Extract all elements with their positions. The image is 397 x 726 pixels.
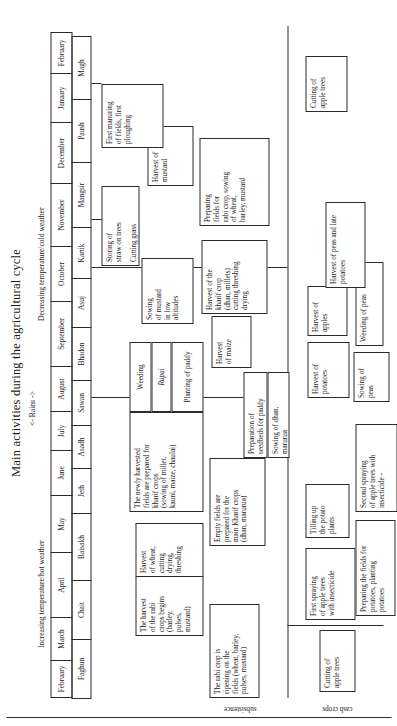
- activity-harvest-potatoes: Harvest of potatoes: [307, 342, 349, 398]
- activity-mustard-sowing-low-altitude: Sowing of mustard in low altitudes: [141, 258, 193, 324]
- activity-planting-paddy: Planting of paddy: [171, 342, 203, 412]
- nepali-month-chait: Chait: [71, 580, 91, 640]
- nepali-month-bhadon: Bhadon: [71, 327, 91, 381]
- activity-rabi-ripening: The rabi crop is ripening on the fields …: [209, 604, 259, 698]
- activity-second-spraying-apple-trees: Second spraying of apple trees with inse…: [355, 424, 397, 512]
- nepali-month-jeth: Jeth: [71, 468, 91, 514]
- calendar-header: February March April May June July Augus…: [50, 26, 91, 698]
- english-months-row: February March April May June July Augus…: [50, 26, 72, 698]
- nepali-months-row: Faghun Chait Baisakh Jeth Asadh Sawan Bh…: [72, 26, 91, 698]
- month-cell-march: March: [50, 617, 72, 661]
- activity-wheat-harvest: Harvest of wheat, cutting drying, thresh…: [135, 523, 203, 577]
- row-label-cash-crops: cash crops: [300, 703, 374, 712]
- activity-cutting-apple-trees-early: Cutting of apple trees: [319, 630, 355, 692]
- nepali-month-sawan: Sawan: [71, 380, 91, 426]
- activity-kharif-harvest: Harvest of the kharif crop (dhan, millet…: [201, 240, 267, 314]
- nepali-month-faghun: Faghun: [71, 639, 91, 699]
- activity-cutting-apple-trees-late: Cutting of apple trees: [305, 56, 347, 112]
- activity-straw-storing-cutting-grass: Storing of straw on trees Cutting grass: [101, 186, 139, 266]
- nepali-month-asuj: Asuj: [71, 278, 91, 328]
- connector-manuring-vertical: [91, 219, 101, 220]
- nepali-month-kartik: Kartik: [71, 227, 91, 279]
- month-cell-january: January: [50, 73, 72, 123]
- activity-first-manuring-ploughing: First manuring of fields, first ploughin…: [101, 84, 163, 148]
- activity-newly-harvested-kharif: The newly harvested fields are prepared …: [129, 412, 203, 512]
- month-cell-december: December: [50, 122, 72, 184]
- activity-harvest-apples: Harvest of apples: [307, 286, 347, 336]
- row-label-subsistence: subsistence: [198, 703, 282, 712]
- activity-rupai: Rupai: [151, 342, 171, 412]
- activity-tilling-potato-plants: Tilling up the potato plants: [305, 484, 349, 538]
- chart-title: Main activities during the agricultural …: [8, 0, 23, 726]
- activity-sowing-peas: Sowing of peas: [353, 352, 389, 402]
- header-rains: <- Rains ->: [27, 391, 36, 426]
- month-cell-september: September: [50, 301, 72, 367]
- agricultural-cycle-chart: Main activities during the agricultural …: [0, 0, 397, 726]
- month-cell-august: August: [50, 366, 72, 412]
- activities-plot: The rabi crop is ripening on the fields …: [91, 26, 383, 698]
- screenshot-root: Main activities during the agricultural …: [0, 0, 397, 726]
- connector-apple-vertical: [91, 83, 101, 84]
- nepali-month-paush: Paush: [71, 99, 91, 163]
- month-cell-june: June: [50, 450, 72, 496]
- month-cell-february-start: February: [50, 660, 72, 698]
- activity-harvest-peas-late-potatoes: Harvest of peas and late potatoes: [325, 202, 365, 288]
- nepali-month-magh: Magh: [71, 36, 91, 100]
- activity-empty-fields-kharif: Empty fields are prepared for the main K…: [209, 458, 265, 546]
- activity-preparing-rabi-fields: Preparing fields for rabi crop, sowing o…: [199, 138, 269, 226]
- vertical-rule-cash-start: [287, 625, 383, 626]
- month-cell-november: November: [50, 183, 72, 247]
- month-cell-may: May: [50, 495, 72, 553]
- nepali-month-mangsir: Mangsir: [71, 162, 91, 228]
- month-cell-february-end: February: [50, 32, 72, 74]
- activity-first-spraying-apple-trees: First spraying of apple trees with insec…: [305, 548, 355, 620]
- nepali-month-asadh: Asadh: [71, 425, 91, 469]
- activity-seedbed-preparation: Preparation of seedbeds for paddy: [243, 372, 267, 458]
- month-cell-october: October: [50, 246, 72, 302]
- activity-rabi-harvest-begins: The harvest of the rabi crops begins (ba…: [135, 576, 203, 636]
- activity-preparing-potato-fields: Preparing the fields for potatoes, plant…: [355, 520, 395, 616]
- month-cell-april: April: [50, 552, 72, 618]
- activity-weeding: Weeding: [129, 342, 151, 412]
- band-divider: [287, 26, 288, 698]
- header-right-season: Decreasing temperature/cold weather: [36, 208, 45, 321]
- nepali-month-baisakh: Baisakh: [71, 513, 91, 581]
- activity-sowing-dhan-marurua: Sowing of dhan, marurua: [267, 372, 289, 458]
- activity-maize-harvest: Harvest of maize: [211, 316, 251, 368]
- month-cell-july: July: [50, 411, 72, 451]
- header-left-season: Increasing temperature/hot weather: [36, 540, 45, 648]
